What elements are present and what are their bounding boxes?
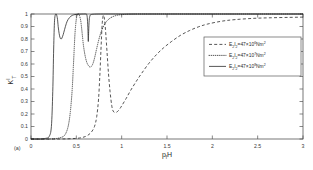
y-axis-tick-labels: 00.10.20.30.40.50.60.70.80.91 [21,11,28,142]
chart-canvas: 00.511.522.53 00.10.20.30.40.50.60.70.80… [0,0,313,170]
y-tick-label: 0.7 [21,48,28,54]
x-tick-label: 2 [211,143,214,149]
x-tick-label: 0 [30,143,33,149]
y-tick-label: 0.1 [21,123,28,129]
curve-dotted [31,14,303,139]
curve-dashed [31,15,303,139]
y-tick-label: 1 [25,11,28,17]
x-tick-label: 0.5 [73,143,80,149]
y-tick-label: 0.9 [21,23,28,29]
y-axis-label-sup: I [6,78,11,79]
y-axis-ticks [31,14,303,139]
y-tick-label: 0 [25,136,28,142]
y-axis-label-sub: T [12,75,17,78]
y-axis-label: KIT [6,75,17,84]
x-axis-ticks [31,14,303,139]
figure-panel-a: 00.511.522.53 00.10.20.30.40.50.60.70.80… [0,0,313,170]
x-axis-label: pfH [162,151,172,160]
panel-label: (a) [14,145,21,151]
y-tick-label: 0.4 [21,86,28,92]
x-axis-label-tail: H [167,151,172,158]
x-tick-label: 1.5 [163,143,170,149]
x-axis-tick-labels: 00.511.522.53 [30,143,305,149]
y-tick-label: 0.2 [21,111,28,117]
data-curves [31,14,303,139]
svg-text:pfH: pfH [162,151,172,160]
svg-text:KIT: KIT [6,75,17,84]
y-tick-label: 0.6 [21,61,28,67]
x-tick-label: 2.5 [254,143,261,149]
y-tick-label: 0.3 [21,98,28,104]
plot-frame [31,14,303,139]
y-tick-label: 0.5 [21,73,28,79]
curve-solid [31,14,303,139]
y-tick-label: 0.8 [21,36,28,42]
x-tick-label: 3 [302,143,305,149]
legend: E2I2=47×106Nm2E2I2=47×107Nm2E2I2=47×108N… [204,37,301,76]
x-tick-label: 1 [120,143,123,149]
